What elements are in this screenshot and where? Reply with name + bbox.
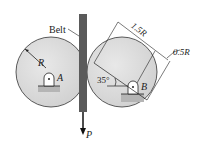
label-dim-short: 0.5R	[173, 47, 190, 57]
disk-b	[87, 37, 157, 107]
label-belt: Belt	[49, 24, 66, 35]
belt-friction-diagram: Belt R A B 35° 1.5R 0.5R P	[0, 0, 203, 148]
label-radius: R	[37, 57, 44, 68]
label-force: P	[85, 129, 92, 140]
label-pin-b: B	[141, 81, 147, 92]
support-a	[38, 86, 60, 92]
diagram-canvas: Belt R A B 35° 1.5R 0.5R P	[0, 0, 203, 148]
disk-a	[16, 37, 86, 107]
label-pin-a: A	[56, 72, 64, 83]
label-dim-long: 1.5R	[129, 20, 149, 38]
label-angle: 35°	[97, 75, 110, 85]
